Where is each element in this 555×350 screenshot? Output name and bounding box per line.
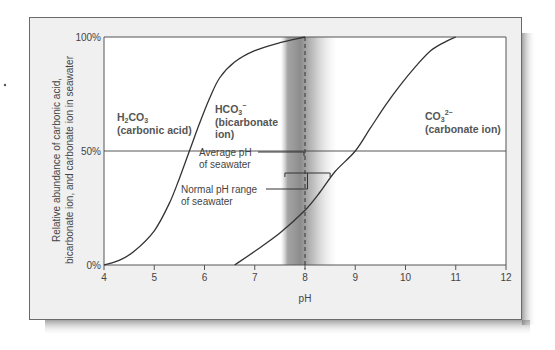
name-carbonic-acid: (carbonic acid): [117, 124, 192, 136]
formula-h2co3: H2CO3: [117, 111, 148, 124]
annotation-average-ph: Average pH of seawater: [199, 147, 252, 170]
y-tick-label-100: 100%: [75, 32, 101, 43]
frame-shadow-right: [522, 33, 536, 325]
annotation-normal-range-line2: of seawater: [181, 196, 233, 207]
chart-svg: 456789101112 0%50%100% Relative abundanc…: [0, 0, 555, 350]
x-tick-label-6: 6: [202, 272, 208, 283]
chart-figure: 456789101112 0%50%100% Relative abundanc…: [0, 0, 555, 350]
y-axis-title-line1: Relative abundance of carbonic acid,: [51, 78, 62, 242]
y-tick-label-0: 0%: [87, 260, 102, 271]
annotation-average-ph-line2: of seawater: [199, 159, 251, 170]
name-carbonate-ion: (carbonate ion): [425, 123, 501, 135]
y-axis-title-line2: bicarbonate ion, and carbonate ion in se…: [64, 55, 75, 264]
y-tick-label-50: 50%: [81, 146, 101, 157]
x-tick-label-12: 12: [500, 272, 512, 283]
x-tick-label-9: 9: [352, 272, 358, 283]
stray-dot: [4, 84, 6, 86]
x-tick-label-11: 11: [451, 272, 462, 283]
x-tick-label-10: 10: [400, 272, 412, 283]
name-bicarbonate-line2: ion): [215, 128, 234, 140]
x-tick-label-4: 4: [101, 272, 107, 283]
x-tick-label-7: 7: [252, 272, 258, 283]
formula-hco3: HCO3−: [215, 102, 246, 116]
x-tick-label-8: 8: [302, 272, 308, 283]
frame-shadow-bottom: [45, 320, 530, 336]
name-bicarbonate-line1: (bicarbonate: [215, 116, 278, 128]
x-axis-title: pH: [299, 293, 312, 304]
annotation-average-ph-line1: Average pH: [199, 147, 252, 158]
x-tick-label-5: 5: [151, 272, 157, 283]
annotation-normal-range-line1: Normal pH range: [181, 184, 258, 195]
